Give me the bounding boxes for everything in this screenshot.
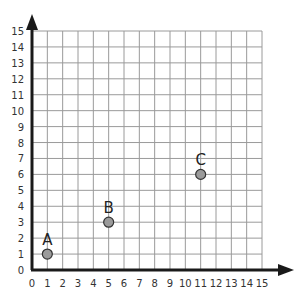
x-tick-label: 1 xyxy=(44,278,50,289)
x-tick-label: 15 xyxy=(256,278,269,289)
y-tick-label: 2 xyxy=(18,233,24,244)
y-tick-label: 4 xyxy=(18,201,24,212)
y-tick-label: 13 xyxy=(11,58,24,69)
y-tick-label: 12 xyxy=(11,74,24,85)
point-marker-icon xyxy=(196,169,206,179)
x-tick-label: 9 xyxy=(167,278,173,289)
x-tick-label: 0 xyxy=(29,278,35,289)
y-tick-label: 11 xyxy=(11,90,24,101)
point-marker-icon xyxy=(104,217,114,227)
x-tick-label: 3 xyxy=(75,278,81,289)
data-point-a: A xyxy=(42,231,53,259)
x-tick-label: 4 xyxy=(90,278,96,289)
x-tick-label: 10 xyxy=(179,278,192,289)
y-axis-arrow-icon xyxy=(26,14,38,30)
point-label: C xyxy=(195,151,205,169)
y-tick-label: 9 xyxy=(18,122,24,133)
y-tick-label: 1 xyxy=(18,249,24,260)
x-tick-label: 8 xyxy=(151,278,157,289)
x-tick-label: 12 xyxy=(210,278,223,289)
point-marker-icon xyxy=(42,249,52,259)
x-axis-tick-labels: 0123456789101112131415 xyxy=(29,278,269,289)
data-point-c: C xyxy=(195,151,205,179)
x-tick-label: 2 xyxy=(59,278,65,289)
y-tick-label: 7 xyxy=(18,153,24,164)
grid-lines xyxy=(32,31,262,270)
y-tick-label: 0 xyxy=(18,265,24,276)
x-tick-label: 13 xyxy=(225,278,238,289)
axes xyxy=(26,14,294,276)
y-tick-label: 14 xyxy=(11,42,24,53)
x-axis-arrow-icon xyxy=(278,264,294,276)
y-tick-label: 8 xyxy=(18,138,24,149)
y-axis-tick-labels: 0123456789101112131415 xyxy=(11,26,24,276)
coordinate-grid-chart: 0123456789101112131415 01234567891011121… xyxy=(0,0,298,302)
y-tick-label: 3 xyxy=(18,217,24,228)
data-point-b: B xyxy=(104,199,114,227)
x-tick-label: 14 xyxy=(240,278,253,289)
x-tick-label: 7 xyxy=(136,278,142,289)
point-label: A xyxy=(42,231,53,249)
y-tick-label: 15 xyxy=(11,26,24,37)
x-tick-label: 5 xyxy=(105,278,111,289)
y-tick-label: 5 xyxy=(18,185,24,196)
y-tick-label: 10 xyxy=(11,106,24,117)
point-label: B xyxy=(104,199,114,217)
x-tick-label: 6 xyxy=(121,278,127,289)
x-tick-label: 11 xyxy=(194,278,207,289)
y-tick-label: 6 xyxy=(18,169,24,180)
